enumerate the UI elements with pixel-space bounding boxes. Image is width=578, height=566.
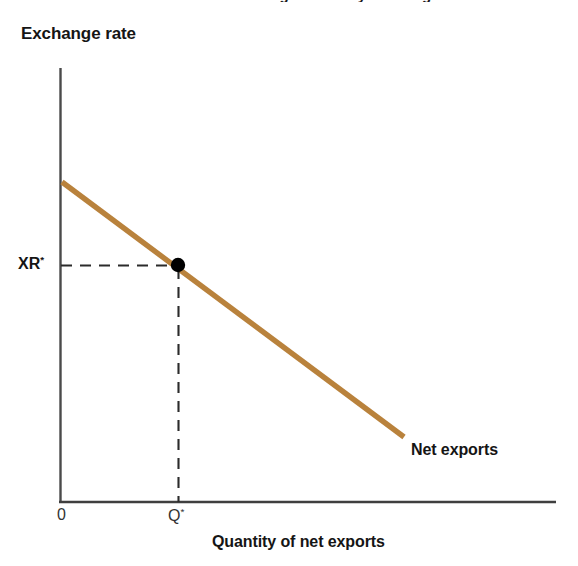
xr-equilibrium-label: XR* xyxy=(18,255,44,272)
q-label-base: Q xyxy=(168,507,180,524)
y-axis-title: Exchange rate xyxy=(21,25,136,42)
q-equilibrium-label: Q* xyxy=(168,507,184,524)
x-axis-title: Quantity of net exports xyxy=(212,534,385,550)
xr-label-base: XR xyxy=(18,255,40,272)
diagram-canvas xyxy=(0,0,578,566)
origin-label: 0 xyxy=(57,507,66,523)
q-label-star: * xyxy=(180,506,184,517)
net-exports-diagram: The market for foreign-currency exchange… xyxy=(0,0,578,566)
net-exports-curve xyxy=(62,182,404,437)
equilibrium-point-marker xyxy=(171,258,185,272)
net-exports-curve-label: Net exports xyxy=(411,442,498,458)
xr-label-star: * xyxy=(40,254,44,265)
